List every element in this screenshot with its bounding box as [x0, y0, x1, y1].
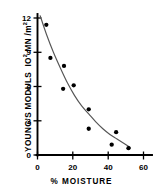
x-tick-label-40: 40: [104, 163, 113, 172]
x-axis-title: % MOISTURE: [0, 178, 163, 186]
data-point: [44, 23, 48, 27]
x-tick-label-60: 60: [139, 163, 148, 172]
data-point: [61, 87, 65, 91]
chart-figure: 12 9 6 3 0 0 20 40 60 YOUNG'S MODULS IO2…: [0, 0, 163, 195]
y-axis-units-exponent-1: 2: [22, 54, 28, 57]
data-point: [114, 130, 118, 134]
fit-curve: [40, 16, 130, 148]
data-point: [48, 56, 52, 60]
x-tick-label-20: 20: [68, 163, 77, 172]
y-axis-units-exponent-2: 2: [22, 22, 28, 25]
axis-lines: [37, 14, 153, 156]
y-axis-title-spacer: [24, 67, 33, 72]
data-point: [87, 107, 91, 111]
data-point-group: [44, 23, 130, 151]
x-tick-label-0: 0: [35, 163, 40, 172]
y-axis-title-main: YOUNG'S MODULS: [24, 72, 33, 152]
y-axis-units-mid: MN /m: [24, 25, 33, 54]
data-point: [110, 143, 114, 147]
y-axis-units-prefix: IO: [24, 57, 33, 66]
data-point: [72, 83, 76, 87]
data-point: [126, 146, 130, 150]
y-axis-title: YOUNG'S MODULS IO2 MN /m2: [23, 12, 33, 162]
data-point: [87, 127, 91, 131]
data-point: [62, 64, 66, 68]
x-tick-labels: 0 20 40 60: [35, 163, 148, 172]
